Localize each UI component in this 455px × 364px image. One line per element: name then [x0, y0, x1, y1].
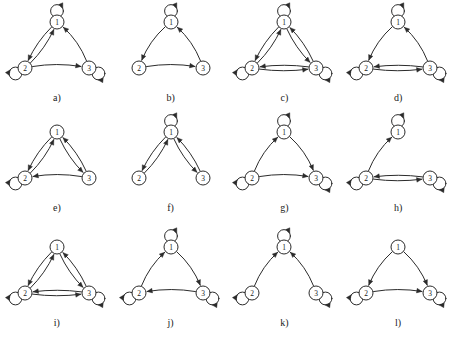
edge-1-to-3: [60, 139, 83, 172]
node-2-label: 2: [364, 174, 368, 183]
arrowhead-1-to-2: [142, 165, 146, 171]
edge-1-to-3: [290, 137, 313, 170]
arrowhead-2-to-1: [163, 140, 167, 146]
node-2: 2: [18, 286, 32, 300]
edge-3-to-1: [63, 138, 86, 171]
edge-1-to-2: [369, 27, 392, 60]
node-1: 1: [277, 125, 291, 139]
node-3: 3: [196, 171, 210, 185]
panel-j: 123j): [114, 225, 228, 364]
node-1: 1: [391, 240, 405, 254]
edge-1-to-3: [287, 29, 310, 62]
arrowhead-self-loop-node-3: [325, 78, 330, 83]
graph-c: 123: [228, 0, 340, 92]
node-3: 3: [423, 171, 437, 185]
edge-3-to-1: [63, 27, 86, 60]
node-3-label: 3: [201, 64, 205, 73]
edge-3-to-1: [291, 252, 314, 285]
arrowhead-self-loop-node-3: [325, 188, 330, 193]
arrowhead-2-to-3: [416, 68, 421, 73]
arrowhead-2-to-1: [49, 255, 53, 261]
graph-k: 123: [228, 225, 340, 317]
node-1-label: 1: [283, 128, 287, 137]
arrowhead-self-loop-node-3: [439, 78, 444, 83]
graph-e: 123: [1, 110, 113, 202]
graph-i: 123: [1, 225, 113, 317]
node-2-label: 2: [364, 64, 368, 73]
node-3: 3: [196, 286, 210, 300]
node-1-label: 1: [169, 18, 173, 27]
node-3-label: 3: [87, 64, 91, 73]
arrowhead-1-to-2: [256, 55, 260, 61]
arrowhead-self-loop-node-3: [439, 303, 444, 308]
node-2: 2: [132, 286, 146, 300]
node-2-label: 2: [23, 64, 27, 73]
edge-1-to-2: [28, 252, 51, 285]
node-1-label: 1: [283, 18, 287, 27]
node-2-label: 2: [137, 174, 141, 183]
node-1-label: 1: [169, 128, 173, 137]
node-1-label: 1: [169, 243, 173, 252]
edge-3-to-1: [177, 27, 200, 60]
graph-h: 123: [342, 110, 454, 202]
edge-2-to-1: [30, 30, 53, 63]
arrowhead-1-to-3: [310, 165, 314, 171]
panel-caption-b: b): [166, 93, 174, 103]
edge-2-to-1: [144, 140, 167, 173]
panel-caption-l: l): [395, 318, 401, 328]
panel-caption-h: h): [394, 203, 402, 213]
arrowhead-3-to-2: [261, 64, 266, 69]
graph-d: 123: [342, 0, 454, 92]
node-2-label: 2: [23, 289, 27, 298]
edge-2-to-3: [374, 69, 422, 71]
arrowhead-1-to-2: [141, 55, 145, 61]
node-3: 3: [82, 171, 96, 185]
panel-l: 123l): [341, 225, 455, 364]
panel-caption-f: f): [167, 203, 174, 213]
node-1-label: 1: [283, 243, 287, 252]
node-3-label: 3: [428, 64, 432, 73]
arrowhead-self-loop-node-3: [98, 78, 103, 83]
graph-j: 123: [115, 225, 227, 317]
node-2: 2: [245, 61, 259, 75]
node-2: 2: [18, 171, 32, 185]
arrowhead-3-to-2: [33, 289, 38, 294]
edge-3-to-2: [374, 175, 422, 177]
node-1: 1: [50, 240, 64, 254]
panel-e: 123e): [0, 110, 114, 225]
node-3: 3: [309, 286, 323, 300]
node-1-label: 1: [396, 128, 400, 137]
node-1: 1: [391, 15, 405, 29]
node-3-label: 3: [201, 174, 205, 183]
arrowhead-self-loop-node-3: [98, 303, 103, 308]
arrowhead-2-to-1: [277, 30, 281, 36]
panel-caption-i: i): [54, 318, 60, 328]
edge-3-to-2: [261, 65, 309, 67]
arrowhead-2-to-1: [49, 30, 53, 36]
node-2-label: 2: [364, 289, 368, 298]
arrowhead-self-loop-node-3: [439, 188, 444, 193]
edge-2-to-1: [30, 255, 53, 288]
edge-2-to-3: [374, 179, 422, 181]
panel-caption-a: a): [53, 93, 61, 103]
node-1: 1: [164, 240, 178, 254]
edge-2-to-1: [255, 252, 278, 285]
panel-caption-j: j): [168, 318, 174, 328]
arrowhead-2-to-3: [416, 178, 421, 183]
panel-caption-c: c): [280, 93, 288, 103]
node-3-label: 3: [87, 174, 91, 183]
panel-h: 123h): [341, 110, 455, 225]
node-2: 2: [359, 61, 373, 75]
arrowhead-2-to-3: [303, 68, 308, 73]
edge-2-to-3: [146, 64, 194, 66]
edge-1-to-2: [369, 252, 392, 285]
node-3-label: 3: [428, 174, 432, 183]
graph-l: 123: [342, 225, 454, 317]
arrowhead-1-to-2: [369, 55, 373, 61]
node-2: 2: [132, 171, 146, 185]
arrowhead-3-to-2: [374, 64, 379, 69]
node-1: 1: [164, 125, 178, 139]
node-3: 3: [309, 61, 323, 75]
arrowhead-2-to-3: [303, 173, 309, 178]
arrowhead-1-to-3: [423, 280, 427, 286]
